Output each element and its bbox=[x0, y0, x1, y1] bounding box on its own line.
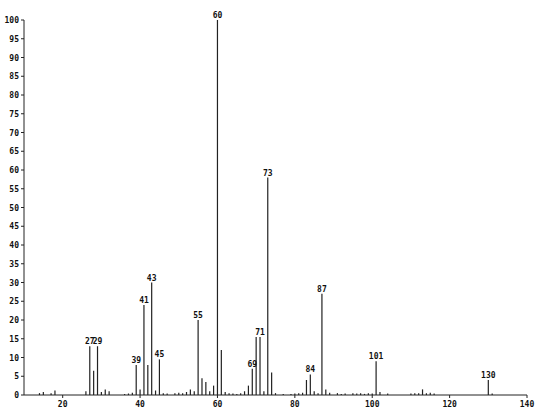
y-axis: 0510152025303540455055606570758085909510… bbox=[5, 16, 24, 400]
x-axis: 20406080100120140 bbox=[24, 395, 534, 409]
spectrum-bars bbox=[39, 20, 492, 395]
peak-label: 73 bbox=[263, 169, 273, 178]
y-tick-label: 50 bbox=[9, 204, 19, 213]
peak-label: 87 bbox=[317, 285, 327, 294]
y-tick-label: 75 bbox=[9, 110, 19, 119]
y-tick-label: 10 bbox=[9, 354, 19, 363]
peak-label: 29 bbox=[93, 337, 103, 346]
peak-label: 55 bbox=[193, 311, 203, 320]
y-tick-label: 65 bbox=[9, 147, 19, 156]
y-tick-label: 90 bbox=[9, 54, 19, 63]
y-tick-label: 25 bbox=[9, 297, 19, 306]
y-tick-label: 60 bbox=[9, 166, 19, 175]
y-tick-label: 35 bbox=[9, 260, 19, 269]
x-tick-label: 80 bbox=[290, 400, 300, 409]
x-tick-label: 20 bbox=[58, 400, 68, 409]
y-tick-label: 5 bbox=[14, 372, 19, 381]
x-tick-label: 40 bbox=[135, 400, 145, 409]
y-tick-label: 80 bbox=[9, 91, 19, 100]
y-tick-label: 70 bbox=[9, 129, 19, 138]
peak-label: 84 bbox=[306, 365, 316, 374]
peak-label: 130 bbox=[481, 371, 496, 380]
x-tick-label: 60 bbox=[213, 400, 223, 409]
mass-spectrum-chart: 0510152025303540455055606570758085909510… bbox=[0, 0, 544, 419]
peak-label: 41 bbox=[139, 296, 149, 305]
peak-label: 43 bbox=[147, 274, 157, 283]
y-tick-label: 45 bbox=[9, 222, 19, 231]
y-tick-label: 15 bbox=[9, 335, 19, 344]
y-tick-label: 95 bbox=[9, 35, 19, 44]
peak-label: 45 bbox=[155, 350, 165, 359]
x-tick-label: 100 bbox=[365, 400, 380, 409]
y-tick-label: 85 bbox=[9, 72, 19, 81]
peak-label: 101 bbox=[369, 352, 384, 361]
y-tick-label: 55 bbox=[9, 185, 19, 194]
y-tick-label: 0 bbox=[14, 391, 19, 400]
peak-label: 39 bbox=[131, 356, 141, 365]
y-tick-label: 30 bbox=[9, 279, 19, 288]
x-tick-label: 140 bbox=[520, 400, 535, 409]
x-tick-label: 120 bbox=[442, 400, 457, 409]
y-tick-label: 20 bbox=[9, 316, 19, 325]
y-tick-label: 100 bbox=[5, 16, 20, 25]
peak-label: 69 bbox=[247, 360, 257, 369]
peak-labels: 27293941434555606971738487101130 bbox=[85, 11, 496, 380]
y-tick-label: 40 bbox=[9, 241, 19, 250]
peak-label: 60 bbox=[213, 11, 223, 20]
peak-label: 71 bbox=[255, 328, 265, 337]
